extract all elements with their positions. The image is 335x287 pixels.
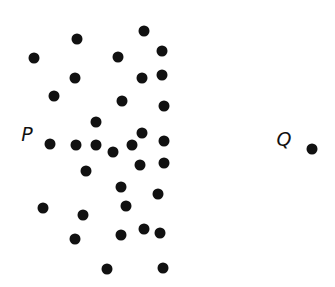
point (38, 203, 49, 214)
point (158, 263, 169, 274)
point (70, 73, 81, 84)
point (135, 160, 146, 171)
point (113, 52, 124, 63)
point (139, 224, 150, 235)
point (71, 140, 82, 151)
point (116, 182, 127, 193)
point (159, 136, 170, 147)
point (137, 128, 148, 139)
point (127, 140, 138, 151)
point (91, 117, 102, 128)
point (116, 230, 127, 241)
point (139, 26, 150, 37)
point (108, 147, 119, 158)
point (159, 158, 170, 169)
point (155, 228, 166, 239)
label-p: P (21, 125, 32, 144)
point (81, 166, 92, 177)
point (29, 53, 40, 64)
point (91, 140, 102, 151)
point-q (307, 144, 318, 155)
point (78, 210, 89, 221)
point (159, 101, 170, 112)
point (157, 70, 168, 81)
point (72, 34, 83, 45)
point (70, 234, 81, 245)
point-p (45, 139, 56, 150)
point (153, 189, 164, 200)
label-q: Q (277, 130, 292, 149)
point (121, 201, 132, 212)
point (117, 96, 128, 107)
point (102, 264, 113, 275)
point (49, 91, 60, 102)
point (157, 46, 168, 57)
point (137, 73, 148, 84)
